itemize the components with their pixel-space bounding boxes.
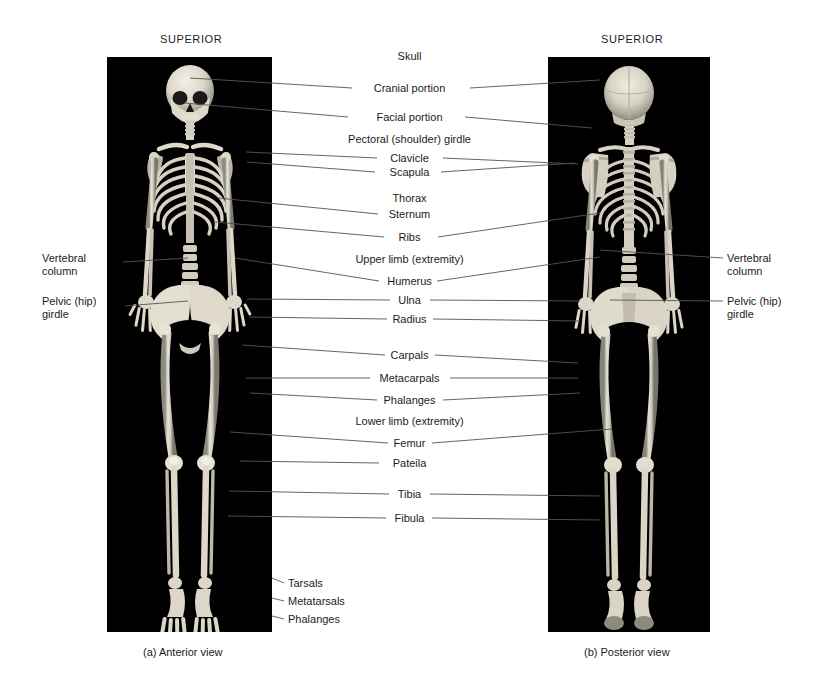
label-line-2: column	[42, 265, 86, 278]
skeleton-figure: SUPERIOR SUPERIOR Skull Cranial portion …	[0, 0, 819, 680]
label-line-1: Pelvic (hip)	[42, 295, 96, 308]
label-line-1: Vertebral	[727, 252, 771, 265]
label-line-1: Pelvic (hip)	[727, 295, 781, 308]
label-line-1: Vertebral	[42, 252, 86, 265]
label-line-2: girdle	[42, 308, 96, 321]
label-vertebral-column-right: Vertebral column	[727, 252, 771, 278]
anterior-skeleton-panel	[107, 57, 272, 632]
superior-label-left: SUPERIOR	[160, 33, 222, 45]
superior-label-right: SUPERIOR	[601, 33, 663, 45]
label-line-2: column	[727, 265, 771, 278]
label-line-2: girdle	[727, 308, 781, 321]
anterior-skeleton-illustration	[107, 57, 272, 632]
label-pelvic-girdle-left: Pelvic (hip) girdle	[42, 295, 96, 321]
label-tarsals: Tarsals	[288, 577, 323, 589]
label-metatarsals: Metatarsals	[288, 595, 345, 607]
caption-anterior-view: (a) Anterior view	[143, 646, 222, 658]
label-phalanges-foot: Phalanges	[288, 613, 340, 625]
caption-posterior-view: (b) Posterior view	[584, 646, 670, 658]
label-pelvic-girdle-right: Pelvic (hip) girdle	[727, 295, 781, 321]
posterior-skeleton-illustration	[548, 57, 710, 632]
posterior-skeleton-panel	[548, 57, 710, 632]
label-vertebral-column-left: Vertebral column	[42, 252, 86, 278]
